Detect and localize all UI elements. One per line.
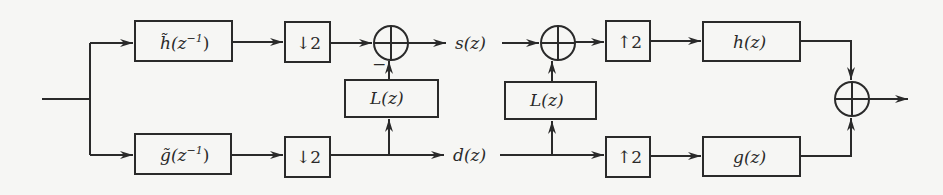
block-diagram: h̃(z−1) g̃(z−1) ↓2 ↓2 − s(z) L(z) d( <box>0 0 943 195</box>
downsample-top-block: ↓2 <box>285 22 330 62</box>
upsample-bottom-block: ↑2 <box>606 137 650 177</box>
filter-func: g̃ <box>160 145 171 165</box>
lifting-update-block: L(z) <box>505 82 596 119</box>
svg-text:L(z): L(z) <box>369 88 404 108</box>
analysis-lowpass-filter-block: h̃(z−1) <box>135 21 232 61</box>
wire-arrow <box>800 41 851 80</box>
upsample-top-block: ↑2 <box>606 21 650 61</box>
input-wire <box>42 43 133 155</box>
minus-sign: − <box>372 54 386 74</box>
summing-junction-2 <box>541 26 575 60</box>
svg-text:g̃(z−1): g̃(z−1) <box>160 144 209 165</box>
svg-text:↑2: ↑2 <box>617 147 642 167</box>
svg-text:↓2: ↓2 <box>296 33 321 53</box>
svg-text:L(z): L(z) <box>529 90 564 110</box>
synthesis-lowpass-filter-block: h(z) <box>703 22 800 61</box>
filter-func: h̃ <box>160 33 171 53</box>
svg-text:h(z): h(z) <box>733 32 766 52</box>
signal-d-label: d(z) <box>453 145 486 165</box>
up-arrow-icon: ↑ <box>617 147 631 167</box>
analysis-highpass-filter-block: g̃(z−1) <box>135 134 231 174</box>
lifting-predict-block: L(z) <box>345 80 438 117</box>
svg-text:↑2: ↑2 <box>617 32 642 52</box>
svg-text:↓2: ↓2 <box>296 147 321 167</box>
svg-text:h̃(z−1): h̃(z−1) <box>160 32 209 53</box>
signal-s-label: s(z) <box>455 33 486 53</box>
output-summing-junction <box>835 82 869 116</box>
up-arrow-icon: ↑ <box>617 32 631 52</box>
down-arrow-icon: ↓ <box>296 147 310 167</box>
svg-text:g(z): g(z) <box>733 147 766 167</box>
synthesis-highpass-filter-block: g(z) <box>703 137 800 176</box>
down-arrow-icon: ↓ <box>296 33 310 53</box>
wire-arrow <box>800 118 851 156</box>
downsample-bottom-block: ↓2 <box>285 137 330 177</box>
